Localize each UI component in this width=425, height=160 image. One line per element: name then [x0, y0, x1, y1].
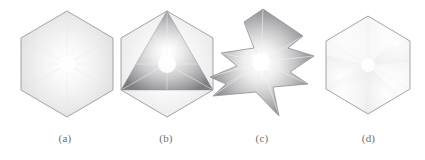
shape-hexagon-d [312, 0, 425, 130]
center-highlight-a [59, 56, 75, 72]
shape-star-polygon-c [204, 0, 320, 130]
center-highlight-b [158, 55, 176, 73]
figure-sheet: (a) [0, 0, 425, 160]
panel-label-c: (c) [204, 131, 320, 145]
center-highlight-c [252, 53, 270, 71]
center-highlight-d [361, 58, 375, 72]
figure-panel-d: (d) [312, 0, 425, 160]
panel-label-d: (d) [312, 131, 425, 145]
figure-panel-c: (c) [204, 0, 320, 160]
